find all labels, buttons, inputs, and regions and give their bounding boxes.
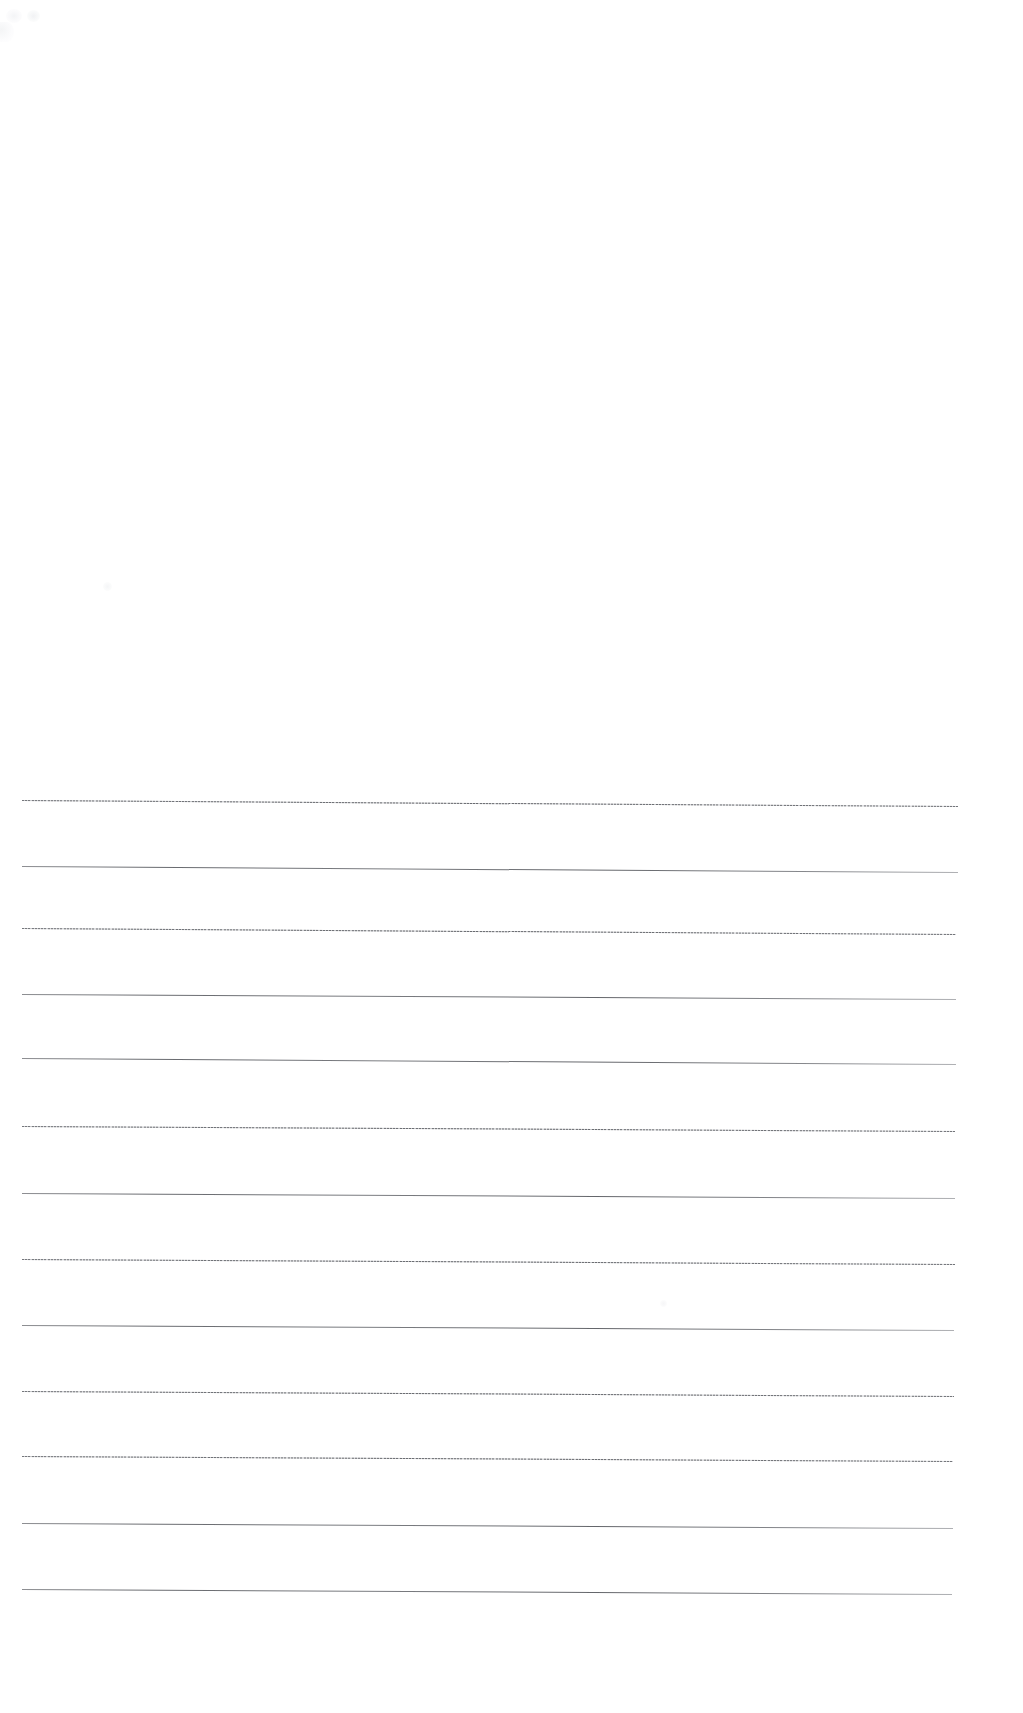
ruled-line-ink bbox=[22, 1391, 954, 1397]
scanned-page bbox=[0, 0, 1023, 1713]
ruled-line bbox=[22, 928, 956, 935]
ruled-line bbox=[22, 1126, 955, 1132]
ruled-line bbox=[22, 1523, 953, 1529]
ruled-line bbox=[22, 1589, 952, 1595]
ruled-line-ink bbox=[22, 1589, 952, 1595]
ruled-line bbox=[22, 1259, 955, 1265]
ruled-line-ink bbox=[22, 800, 958, 807]
ruled-line-ink bbox=[22, 1523, 953, 1529]
ruled-line-ink bbox=[22, 1126, 955, 1132]
ruled-line-ink bbox=[22, 1259, 955, 1265]
ruled-line bbox=[22, 1325, 954, 1331]
ruled-line bbox=[22, 1456, 953, 1462]
ruled-line-ink bbox=[22, 1325, 954, 1331]
ruled-line bbox=[22, 1193, 955, 1199]
ruled-line-ink bbox=[22, 1193, 955, 1199]
ruled-line-ink bbox=[22, 1058, 956, 1065]
ruled-line-ink bbox=[22, 1456, 953, 1462]
ruled-line bbox=[22, 800, 958, 807]
ruled-line bbox=[22, 1058, 956, 1065]
ruled-line-ink bbox=[22, 994, 956, 1000]
ruled-line bbox=[22, 866, 958, 873]
ruled-line bbox=[22, 1391, 954, 1397]
ruled-lines-group bbox=[0, 0, 1023, 1713]
ruled-line-ink bbox=[22, 928, 956, 935]
ruled-line-ink bbox=[22, 866, 958, 873]
ruled-line bbox=[22, 994, 956, 1000]
